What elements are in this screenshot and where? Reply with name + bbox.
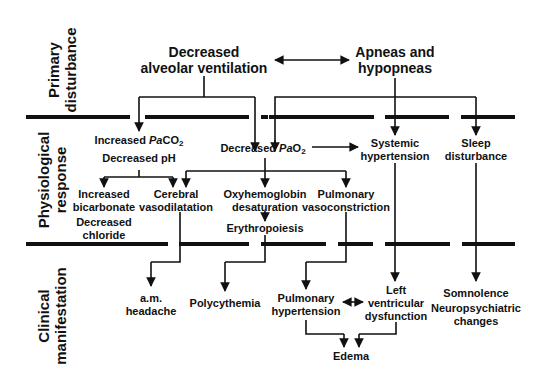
node-line: dysfunction bbox=[365, 310, 427, 323]
node-polycythemia: Polycythemia bbox=[190, 297, 261, 310]
node-pulmonary-vasoconstriction: Pulmonary vasoconstriction bbox=[302, 188, 390, 214]
node-decreased-pao2: Decreased PaO2 bbox=[220, 142, 305, 158]
node-var: Pa bbox=[149, 134, 162, 146]
section-label-line: Physiological bbox=[35, 110, 52, 250]
node-line: Systemic bbox=[360, 137, 429, 150]
section-label-line: manifestation bbox=[52, 246, 69, 378]
section-label-line: disturbance bbox=[62, 15, 79, 125]
section-label-primary: Primary disturbance bbox=[45, 15, 85, 125]
node-line: Polycythemia bbox=[190, 297, 261, 310]
node-text: Increased bbox=[95, 134, 149, 146]
node-gas: O bbox=[293, 142, 302, 154]
node-line: Left bbox=[365, 284, 427, 297]
section-label-clinical: Clinical manifestation bbox=[35, 246, 75, 378]
node-line: headache bbox=[126, 305, 177, 318]
section-label-line: response bbox=[52, 110, 69, 250]
node-line: hypertension bbox=[271, 305, 340, 318]
node-line: Neuropsychiatric bbox=[431, 302, 521, 315]
node-line: Increased bbox=[73, 188, 135, 201]
node-line: ventricular bbox=[365, 297, 427, 310]
node-line: Sleep bbox=[445, 137, 507, 150]
section-label-physiological: Physiological response bbox=[35, 110, 75, 250]
node-edema: Edema bbox=[333, 350, 369, 363]
node-line: alveolar ventilation bbox=[141, 60, 268, 76]
node-line: vasoconstriction bbox=[302, 201, 390, 214]
node-gas: CO bbox=[162, 134, 179, 146]
node-erythropoiesis: Erythropoiesis bbox=[226, 222, 303, 235]
node-text: Decreased bbox=[220, 142, 279, 154]
node-bicarbonate-chloride: Increased bicarbonate Decreased chloride bbox=[73, 188, 135, 242]
node-apneas-hypopneas: Apneas and hypopneas bbox=[355, 44, 434, 76]
node-am-headache: a.m. headache bbox=[126, 292, 177, 318]
node-line: Erythropoiesis bbox=[226, 222, 303, 235]
node-sleep-disturbance: Sleep disturbance bbox=[445, 137, 507, 163]
node-line: chloride bbox=[73, 229, 135, 242]
node-line: Pulmonary bbox=[271, 292, 340, 305]
node-line: hypertension bbox=[360, 150, 429, 163]
node-line: Oxyhemoglobin bbox=[223, 188, 306, 201]
node-line: disturbance bbox=[445, 150, 507, 163]
node-line: Pulmonary bbox=[302, 188, 390, 201]
node-line: desaturation bbox=[223, 201, 306, 214]
node-pulmonary-hypertension: Pulmonary hypertension bbox=[271, 292, 340, 318]
node-decreased-alveolar-ventilation: Decreased alveolar ventilation bbox=[141, 44, 268, 76]
node-line: Decreased bbox=[141, 44, 268, 60]
node-line: Decreased bbox=[73, 216, 135, 229]
node-line: vasodilatation bbox=[139, 201, 213, 214]
node-line: Cerebral bbox=[139, 188, 213, 201]
node-line: hypopneas bbox=[355, 60, 434, 76]
node-oxyhemoglobin-desaturation: Oxyhemoglobin desaturation bbox=[223, 188, 306, 214]
node-line: a.m. bbox=[126, 292, 177, 305]
node-line: changes bbox=[431, 315, 521, 328]
node-line: Decreased pH bbox=[95, 152, 184, 165]
node-somnolence-neuropsychiatric: Somnolence Neuropsychiatric changes bbox=[431, 287, 521, 328]
node-line: Apneas and bbox=[355, 44, 434, 60]
section-label-line: Primary bbox=[45, 15, 62, 125]
node-cerebral-vasodilatation: Cerebral vasodilatation bbox=[139, 188, 213, 214]
node-increased-paco2: Increased PaCO2 Decreased pH bbox=[95, 134, 184, 165]
node-systemic-hypertension: Systemic hypertension bbox=[360, 137, 429, 163]
section-label-line: Clinical bbox=[35, 246, 52, 378]
node-subscript: 2 bbox=[179, 139, 183, 148]
node-left-ventricular-dysfunction: Left ventricular dysfunction bbox=[365, 284, 427, 323]
node-var: Pa bbox=[279, 142, 292, 154]
node-line: Somnolence bbox=[431, 287, 521, 300]
node-subscript: 2 bbox=[301, 147, 305, 156]
node-line: bicarbonate bbox=[73, 201, 135, 214]
node-line: Edema bbox=[333, 350, 369, 363]
